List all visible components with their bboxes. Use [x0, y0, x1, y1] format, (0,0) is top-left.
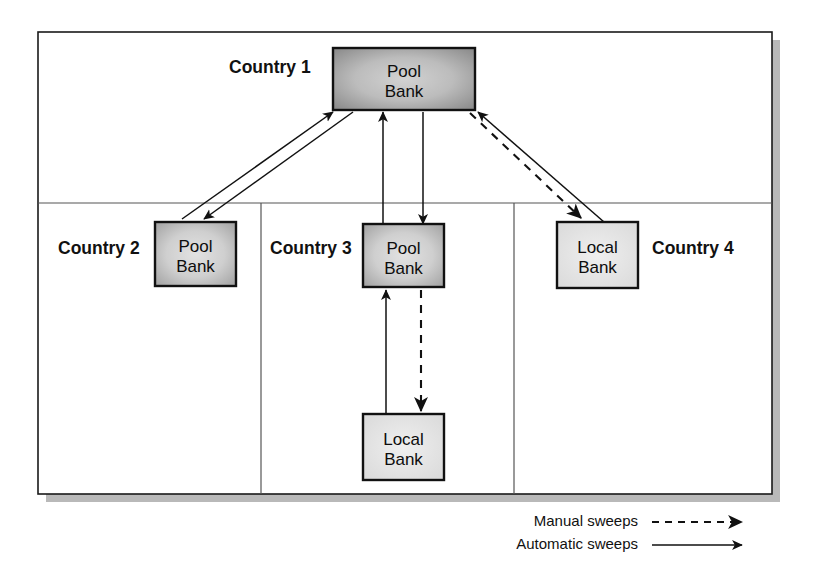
diagram-canvas: PoolBankPoolBankPoolBankLocalBankLocalBa…	[0, 0, 814, 580]
pool-bank-country-3-line2: Bank	[384, 259, 423, 278]
pool-bank-country-2: PoolBank	[155, 222, 236, 286]
legend: Manual sweepsAutomatic sweeps	[516, 512, 742, 552]
diagram-svg: PoolBankPoolBankPoolBankLocalBankLocalBa…	[0, 0, 814, 580]
country-1-label: Country 1	[229, 57, 311, 77]
pool-bank-country-3-line1: Pool	[386, 239, 420, 258]
legend-manual: Manual sweeps	[534, 512, 742, 529]
legend-manual-label: Manual sweeps	[534, 512, 638, 529]
local-bank-country-3-line1: Local	[383, 430, 424, 449]
pool-bank-country-3: PoolBank	[363, 224, 444, 287]
legend-automatic: Automatic sweeps	[516, 535, 742, 552]
local-bank-country-3-line2: Bank	[384, 450, 423, 469]
country-3-label: Country 3	[270, 238, 352, 258]
local-bank-country-4-line2: Bank	[578, 258, 617, 277]
country-4-label: Country 4	[652, 238, 734, 258]
pool-bank-country-1: PoolBank	[333, 48, 475, 110]
legend-automatic-label: Automatic sweeps	[516, 535, 638, 552]
pool-bank-country-2-line2: Bank	[176, 257, 215, 276]
country-2-label: Country 2	[58, 238, 140, 258]
local-bank-country-4-line1: Local	[577, 238, 618, 257]
local-bank-country-4: LocalBank	[557, 222, 638, 288]
pool-bank-country-2-line1: Pool	[178, 237, 212, 256]
pool-bank-country-1-line1: Pool	[387, 62, 421, 81]
local-bank-country-3: LocalBank	[363, 414, 444, 480]
pool-bank-country-1-line2: Bank	[385, 82, 424, 101]
